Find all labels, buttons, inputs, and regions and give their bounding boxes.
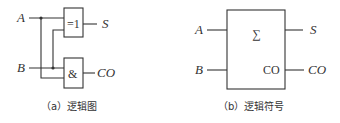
and-gate-label: &: [68, 67, 78, 81]
output-label-co: CO: [97, 65, 116, 80]
input-label-b: B: [17, 60, 25, 75]
block-input-label-a: A: [194, 22, 203, 37]
caption-a: （a）逻辑图: [41, 100, 97, 112]
caption-b: （b）逻辑符号: [218, 100, 284, 112]
block-input-label-b: B: [195, 62, 203, 77]
sigma-symbol: ∑: [252, 27, 261, 41]
xor-gate-label: =1: [67, 17, 80, 31]
junction-dot-b: [51, 66, 54, 69]
half-adder-figure: A B =1 & S CO （a）逻辑图 A B ∑ CO S CO （b）逻辑…: [0, 0, 340, 123]
input-label-a: A: [16, 10, 25, 25]
adder-block: [227, 10, 285, 89]
block-inner-co: CO: [263, 63, 280, 77]
junction-dot-a: [39, 16, 42, 19]
block-output-label-s: S: [310, 22, 317, 37]
output-label-s: S: [102, 16, 109, 31]
block-output-label-co: CO: [308, 62, 327, 77]
wire-b-to-xor: [53, 30, 64, 68]
